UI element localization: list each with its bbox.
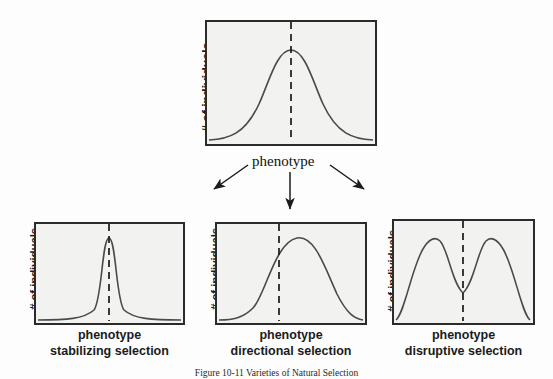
disruptive-x-axis-label: phenotype	[392, 328, 535, 342]
natural-selection-figure: # of individuals phenotype phenotype # o…	[0, 0, 553, 379]
stabilizing-plot-box	[34, 222, 185, 325]
stabilizing-curve-svg	[36, 224, 183, 323]
disruptive-caption: disruptive selection	[382, 344, 545, 358]
disruptive-curve-svg	[394, 221, 533, 323]
directional-x-axis-label: phenotype	[215, 328, 367, 342]
center-phenotype-label: phenotype	[252, 153, 314, 170]
arrow-to-stabilizing	[214, 165, 248, 189]
directional-curve-svg	[217, 224, 365, 323]
directional-plot-box	[215, 222, 367, 325]
disruptive-plot-box	[392, 219, 535, 325]
directional-curve	[219, 238, 363, 320]
figure-caption: Figure 10-11 Varieties of Natural Select…	[0, 368, 553, 378]
directional-caption: directional selection	[205, 344, 377, 358]
stabilizing-caption: stabilizing selection	[24, 344, 195, 358]
arrow-to-disruptive	[330, 165, 364, 189]
top-panel-plot-box	[205, 20, 377, 146]
stabilizing-x-axis-label: phenotype	[34, 328, 185, 342]
top-panel-curve-svg	[207, 22, 375, 144]
